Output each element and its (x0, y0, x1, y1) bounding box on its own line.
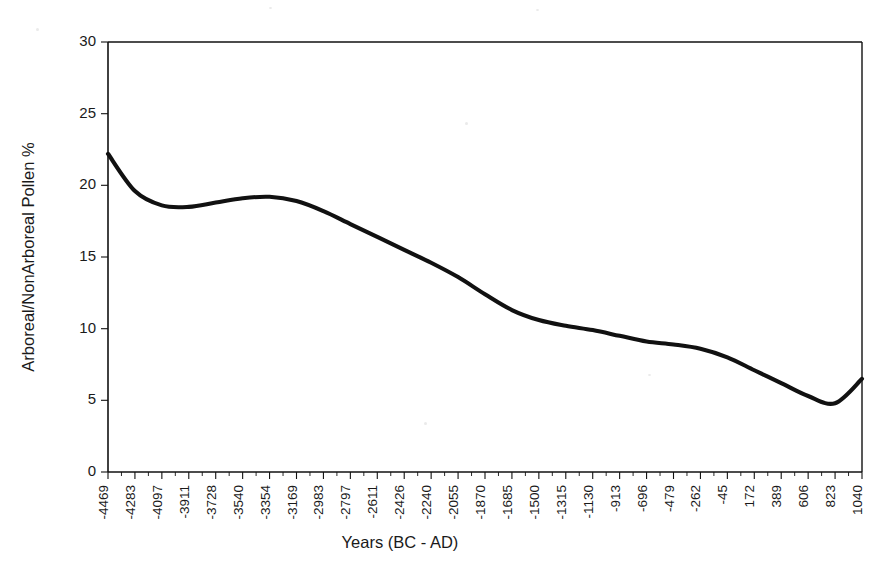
y-tick-label: 30 (79, 32, 96, 49)
x-tick-label: 389 (769, 485, 784, 508)
x-tick-label: -3728 (204, 485, 219, 520)
x-tick-label: -2797 (338, 485, 353, 520)
x-tick-label: -696 (635, 485, 650, 512)
x-tick-label: -1130 (581, 485, 596, 519)
y-tick-label: 10 (79, 319, 96, 336)
y-axis-title: Arboreal/NonArboreal Pollen % (19, 142, 37, 372)
x-axis-title: Years (BC - AD) (342, 533, 459, 551)
x-tick-label: 606 (796, 485, 811, 508)
x-tick-label: -2611 (365, 485, 380, 519)
x-tick-label: -1315 (554, 485, 569, 520)
y-tick-label: 5 (88, 390, 96, 407)
x-tick-label: -479 (662, 485, 677, 512)
x-tick-label: -2983 (311, 485, 326, 520)
scan-speck (536, 9, 539, 11)
y-tick-label: 0 (88, 462, 96, 479)
scan-speck (648, 374, 651, 376)
x-tick-label: -3169 (285, 485, 300, 520)
x-tick-label: -3911 (177, 485, 192, 519)
x-tick-label: -2055 (446, 485, 461, 520)
x-tick-label: 172 (742, 485, 757, 508)
scan-speck (424, 422, 427, 425)
x-tick-label: -45 (715, 485, 730, 505)
x-tick-label: -2240 (419, 485, 434, 520)
x-tick-label: -2426 (392, 485, 407, 520)
x-tick-label: -262 (688, 485, 703, 512)
x-tick-label: 823 (823, 485, 838, 508)
x-tick-label: -4097 (150, 485, 165, 520)
x-tick-label: -4283 (123, 485, 138, 520)
x-tick-label: -1870 (473, 485, 488, 520)
scan-speck (465, 122, 468, 125)
y-tick-label: 15 (79, 247, 96, 264)
x-tick-label: -913 (608, 485, 623, 512)
x-tick-label: -3540 (231, 485, 246, 520)
x-tick-label: -3354 (258, 485, 273, 520)
y-tick-label: 20 (79, 175, 96, 192)
chart-figure: 0 5 10 15 20 25 30 -4469-4283-4097-3911-… (0, 0, 885, 571)
y-tick-label: 25 (79, 104, 96, 121)
x-tick-label: -1685 (500, 485, 515, 520)
x-tick-label: -4469 (96, 485, 111, 520)
x-tick-label: 1040 (850, 485, 865, 515)
scan-speck (36, 28, 39, 31)
scan-speck (269, 7, 272, 9)
pollen-line-chart: 0 5 10 15 20 25 30 -4469-4283-4097-3911-… (0, 0, 885, 571)
x-tick-label: -1500 (527, 485, 542, 520)
